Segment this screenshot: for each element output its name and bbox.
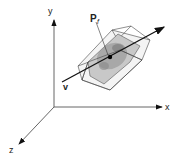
y-axis-label: y [48,6,53,16]
z-axis [19,107,54,144]
coordinate-diagram: y x z P f v [0,0,178,158]
point-subscript: f [97,18,100,25]
x-axis-label: x [165,102,170,112]
z-axis-label: z [9,145,14,155]
point-label: P [90,13,97,24]
vector-label: v [63,82,68,92]
point-pf [108,55,112,59]
